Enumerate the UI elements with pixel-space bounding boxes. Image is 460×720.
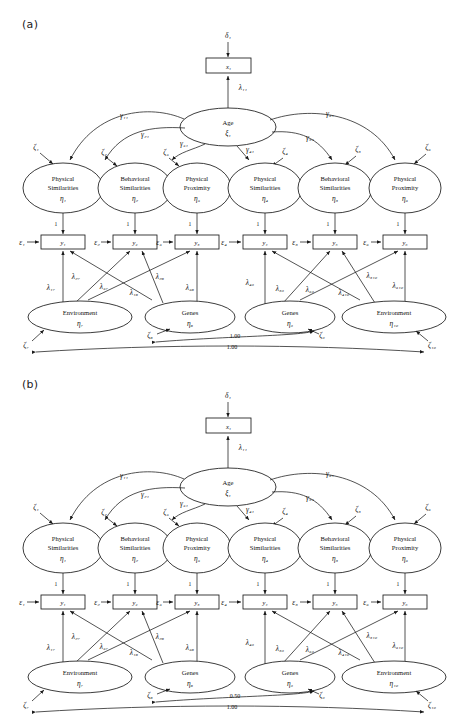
eta1-symbol-a: η₁ — [60, 194, 67, 203]
panel-a: (a) δ₁ x₁ λ₁₁ Age ξ₁ — [0, 0, 460, 360]
eta6-symbol-b: η₆ — [402, 554, 409, 563]
epsilon4-label-b: ε₄ — [221, 598, 227, 607]
lambda37-label-b: λ₃₇ — [99, 642, 109, 651]
eta7-symbol-a: η₇ — [77, 319, 84, 328]
gamma31-label-b: γ₃₁ — [180, 499, 188, 508]
panel-b: (b) δ₁ x₁ λ₁₁ Age ξ₁ γ₁₁ γ₂₁ — [0, 360, 460, 720]
panel-a-diagram: δ₁ x₁ λ₁₁ Age ξ₁ γ₁₁ γ₂₁ γ₃₁ γ₄₁ γ₅₁ — [0, 0, 460, 360]
y2-label-b: y₂ — [131, 599, 138, 606]
gamma61-path-a — [270, 113, 395, 160]
eta5-fixed-loading-a: 1 — [327, 221, 330, 227]
eta8-ellipse-b — [145, 661, 235, 693]
zeta4-label-b: ζ₄ — [282, 507, 288, 516]
gamma11-label-b: γ₁₁ — [120, 471, 128, 480]
zeta3-label-a: ζ₃ — [163, 148, 169, 157]
y4-label-b: y₄ — [261, 599, 268, 606]
lambda27-label-a: λ₂₇ — [71, 272, 81, 281]
eta7-name-b: Environment — [63, 669, 98, 676]
eta4-symbol-a: η₄ — [262, 194, 269, 203]
epsilon3-label-b: ε₃ — [156, 598, 162, 607]
eta2-fixed-loading-a: 1 — [127, 221, 130, 227]
y6-label-a: y₆ — [401, 239, 407, 246]
eta8-name-a: Genes — [182, 309, 199, 316]
environment-covariance-value-a: 1.00 — [227, 344, 238, 350]
eta1-fixed-loading-b: 1 — [55, 581, 58, 587]
eta2-line2-b: Similarities — [120, 544, 151, 551]
y4-label-a: y₄ — [261, 239, 268, 246]
eta3-line2-a: Proximity — [184, 184, 211, 191]
eta5-line2-a: Similarities — [320, 184, 351, 191]
eta5-fixed-loading-b: 1 — [327, 581, 330, 587]
eta3-symbol-a: η₃ — [194, 194, 201, 203]
gamma31-path-b — [172, 504, 205, 520]
eta2-line1-b: Behavioral — [121, 535, 150, 542]
lambda59-label-b: λ₅₉ — [275, 644, 285, 653]
lambda610-label-a: λ₆₁₀ — [392, 281, 404, 290]
epsilon2-label-a: ε₂ — [94, 238, 100, 247]
eta4-fixed-loading-b: 1 — [257, 581, 260, 587]
age-latent-name-a: Age — [223, 119, 234, 126]
eta7-ellipse-b — [28, 661, 132, 693]
epsilon5-label-a: ε₅ — [292, 238, 298, 247]
zeta7-arrow-b — [32, 690, 44, 701]
eta2-symbol-a: η₂ — [132, 194, 139, 203]
eta2-fixed-loading-b: 1 — [127, 581, 130, 587]
lambda410-label-a: λ₄₁₀ — [338, 288, 350, 297]
eta10-symbol-b: η₁₀ — [390, 679, 399, 688]
zeta8-label-b: ζ₈ — [147, 691, 153, 700]
gamma61-label-a: γ₆₁ — [326, 109, 334, 118]
eta9-ellipse-a — [245, 301, 335, 333]
eta1-line2-a: Similarities — [48, 184, 79, 191]
epsilon6-label-b: ε₆ — [363, 598, 369, 607]
environment-covariance-value-b: 1.00 — [227, 704, 238, 710]
lambda38-label-b: λ₃₈ — [185, 643, 195, 652]
eta7-symbol-b: η₇ — [77, 679, 84, 688]
epsilon2-label-b: ε₂ — [94, 598, 100, 607]
eta3-symbol-b: η₃ — [194, 554, 201, 563]
lambda17-label-a: λ₁₇ — [46, 283, 56, 292]
zeta10-arrow-b — [416, 691, 428, 701]
eta9-ellipse-b — [245, 661, 335, 693]
age-latent-symbol-b: ξ₁ — [225, 489, 231, 498]
lambda59-label-a: λ₅₉ — [275, 284, 285, 293]
lambda11-label-b: λ₁₁ — [238, 443, 248, 452]
eta5-symbol-b: η₅ — [332, 554, 339, 563]
eta10-symbol-a: η₁₀ — [390, 319, 399, 328]
eta4-symbol-b: η₄ — [262, 554, 269, 563]
gamma61-label-b: γ₆₁ — [326, 469, 334, 478]
zeta2-label-a: ζ₂ — [101, 148, 107, 157]
x1-label-a: x₁ — [225, 63, 231, 70]
eta9-name-b: Genes — [282, 669, 299, 676]
age-latent-ellipse-b — [180, 468, 276, 506]
age-latent-ellipse-a — [180, 108, 276, 146]
epsilon1-label-a: ε₁ — [19, 238, 25, 247]
eta10-name-a: Environment — [377, 309, 412, 316]
zeta1-arrow-a — [40, 153, 53, 164]
zeta10-arrow-a — [416, 331, 428, 341]
zeta2-arrow-a — [107, 158, 117, 166]
gamma21-label-b: γ₂₁ — [141, 490, 149, 499]
lambda28-label-b: λ₂₈ — [155, 632, 165, 641]
eta6-line1-b: Physical — [394, 535, 417, 542]
zeta2-label-b: ζ₂ — [101, 508, 107, 517]
eta8-symbol-b: η₈ — [187, 679, 194, 688]
epsilon3-label-a: ε₃ — [156, 238, 162, 247]
eta7-name-a: Environment — [63, 309, 98, 316]
lambda59-path-a — [283, 251, 330, 303]
gamma41-label-b: γ₄₁ — [246, 505, 254, 514]
lambda18-label-b: λ₁₈ — [129, 648, 139, 657]
zeta6-label-a: ζ₆ — [425, 143, 431, 152]
eta6-symbol-a: η₆ — [402, 194, 409, 203]
gamma41-label-a: γ₄₁ — [246, 145, 254, 154]
eta6-line2-a: Proximity — [392, 184, 419, 191]
eta9-symbol-b: η₉ — [287, 679, 294, 688]
eta6-fixed-loading-a: 1 — [397, 221, 400, 227]
genes-covariance-value-a: 1.00 — [230, 333, 241, 339]
zeta3-label-b: ζ₃ — [163, 508, 169, 517]
eta4-line2-a: Similarities — [250, 184, 281, 191]
zeta5-label-b: ζ₅ — [355, 505, 361, 514]
y3-label-b: y₃ — [193, 599, 200, 606]
zeta6-arrow-b — [414, 514, 426, 524]
gamma51-path-b — [272, 492, 332, 520]
lambda49-label-a: λ₄₉ — [245, 278, 255, 287]
